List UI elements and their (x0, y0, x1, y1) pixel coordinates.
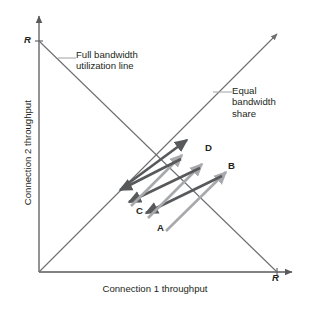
annotation-full-bandwidth: Full bandwidth utilization line (76, 49, 196, 72)
point-label-a: A (157, 222, 164, 233)
full-bandwidth-utilization-line (39, 41, 277, 272)
x-axis-max-tick-label: R (272, 272, 279, 283)
point-label-c: C (136, 205, 143, 216)
annotation-equal-share: Equal bandwidth share (232, 85, 306, 119)
point-label-d: D (205, 142, 212, 153)
y-axis-label: Connection 2 throughput (22, 63, 33, 243)
plot-canvas (0, 0, 310, 312)
y-axis-max-tick-label: R (24, 34, 31, 45)
point-label-b: B (228, 160, 235, 171)
x-axis-label: Connection 1 throughput (0, 283, 310, 294)
fairness-figure: Full bandwidth utilization line Equal ba… (0, 0, 310, 312)
